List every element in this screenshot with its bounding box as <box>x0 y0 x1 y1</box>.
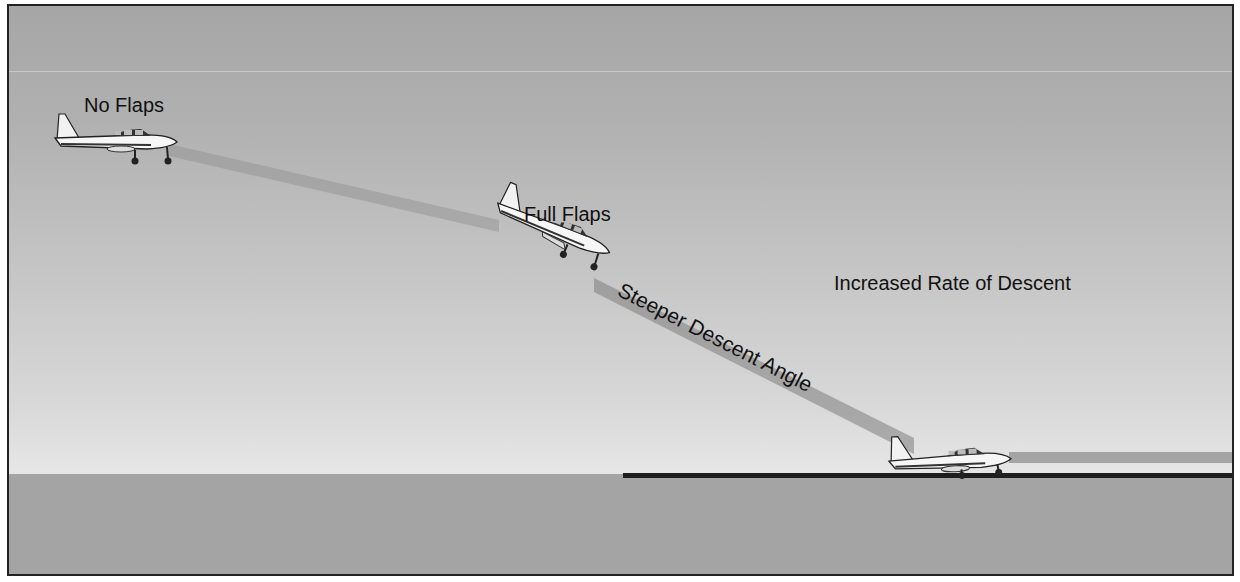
shallow-glidepath <box>169 144 499 232</box>
label-full-flaps: Full Flaps <box>524 203 611 226</box>
diagram-frame: No Flaps Full Flaps Steeper Descent Angl… <box>7 4 1234 576</box>
airplane-landing-icon <box>884 427 1017 494</box>
label-no-flaps: No Flaps <box>84 94 164 117</box>
rollout-band <box>1009 452 1234 463</box>
label-increased-rate: Increased Rate of Descent <box>834 272 1071 295</box>
airplane-no-flaps-icon <box>51 110 181 170</box>
